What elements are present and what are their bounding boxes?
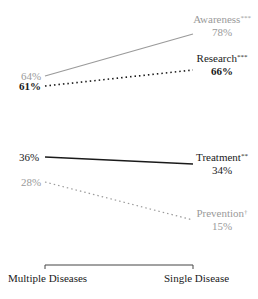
- research-sig: ***: [237, 53, 248, 61]
- treatment-right-value: 34%: [190, 164, 254, 177]
- prevention-left-value: 28%: [21, 176, 41, 189]
- awareness-right-value: 78%: [190, 26, 254, 39]
- treatment-name: Treatment: [196, 151, 241, 163]
- research-left-value: 61%: [19, 80, 41, 93]
- x-axis-bracket: [45, 265, 193, 269]
- x-axis-label-left: Multiple Diseases: [8, 272, 87, 285]
- treatment-left-value: 36%: [19, 151, 39, 164]
- awareness-name: Awareness: [193, 13, 240, 25]
- treatment-right-label: Treatment** 34%: [190, 151, 254, 177]
- prevention-right-value: 15%: [190, 220, 254, 233]
- awareness-line: [45, 34, 193, 76]
- awareness-right-label: Awareness*** 78%: [190, 13, 254, 39]
- research-right-value: 66%: [190, 65, 254, 78]
- treatment-sig: **: [241, 152, 248, 160]
- awareness-sig: ***: [240, 14, 251, 22]
- chart-canvas: [0, 0, 258, 299]
- prevention-right-label: Prevention† 15%: [190, 207, 254, 233]
- research-right-label: Research*** 66%: [190, 52, 254, 78]
- x-axis-label-right: Single Disease: [164, 272, 229, 285]
- treatment-line: [45, 157, 193, 164]
- prevention-sig: †: [244, 208, 248, 216]
- research-line: [45, 70, 193, 86]
- research-name: Research: [197, 52, 237, 64]
- prevention-name: Prevention: [196, 207, 244, 219]
- prevention-line: [45, 182, 193, 220]
